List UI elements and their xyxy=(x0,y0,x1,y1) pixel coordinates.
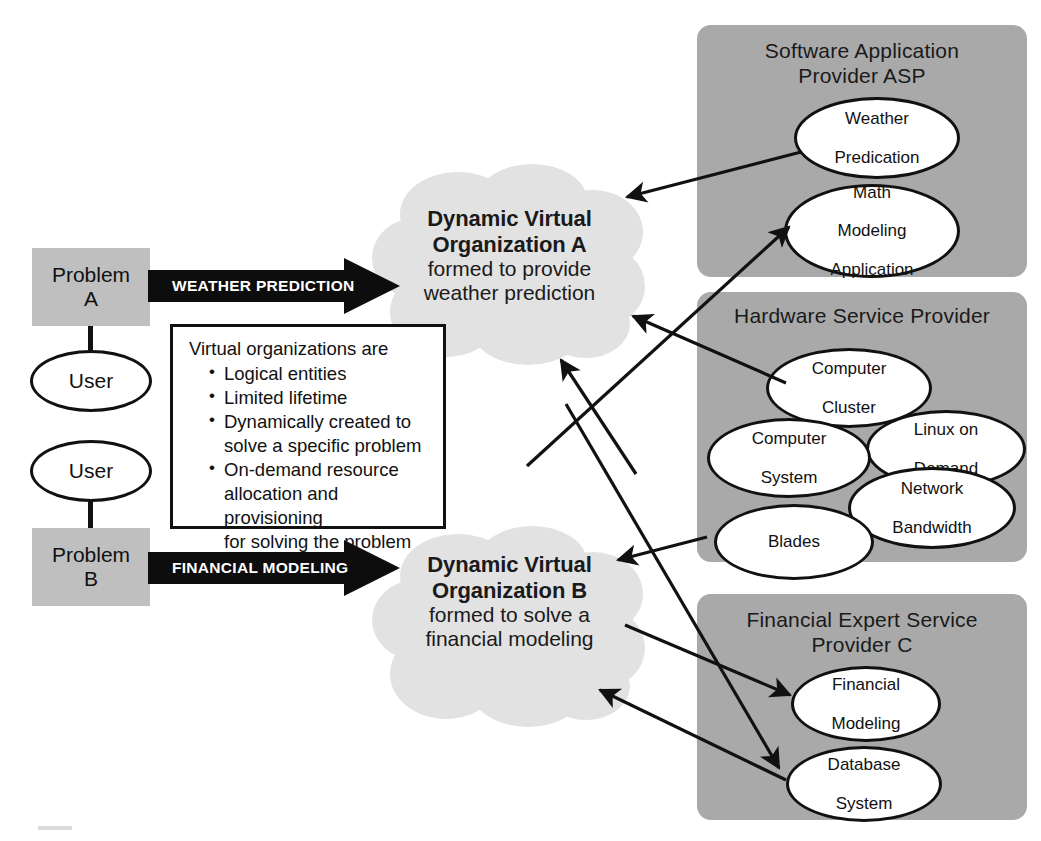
service-node-math-modeling-application[interactable]: Math Modeling Application xyxy=(784,184,960,278)
cloud-b-subtitle-line1: formed to solve a xyxy=(372,603,647,627)
service-label-line1: Blades xyxy=(762,532,826,551)
service-node-database-system[interactable]: Database System xyxy=(786,746,942,822)
user-node-top[interactable]: User xyxy=(30,350,152,412)
diagram-canvas: Software Application Provider ASP Hardwa… xyxy=(0,0,1041,841)
service-label-computer-cluster: Computer Cluster xyxy=(800,359,899,416)
problem-b-line2: B xyxy=(52,567,130,591)
info-box-bullet-line: allocation and provisioning xyxy=(224,483,338,528)
cloud-a-subtitle-line2: weather prediction xyxy=(372,281,647,305)
problem-a-label: Problem A xyxy=(52,263,130,312)
service-label-blades: Blades xyxy=(756,532,832,551)
provider-title-hardware-service: Hardware Service Provider xyxy=(697,304,1027,329)
provider-title-software-application: Software Application Provider ASP xyxy=(697,39,1027,89)
service-node-computer-system[interactable]: Computer System xyxy=(707,418,871,498)
service-label-computer-system: Computer System xyxy=(740,429,839,486)
connector-database-system-to-cloud-a xyxy=(561,360,636,474)
service-label-financial-modeling: Financial Modeling xyxy=(820,675,913,732)
service-label-line2: Modeling xyxy=(826,714,907,733)
service-label-line2: Bandwidth xyxy=(886,518,977,537)
flow-arrow-weather-prediction: WEATHER PREDICTION xyxy=(148,258,400,314)
service-label-line2: System xyxy=(746,468,833,487)
user-bottom-label: User xyxy=(69,459,113,483)
info-box-bullet: On-demand resource allocation and provis… xyxy=(209,458,429,554)
info-box-bullet: Limited lifetime xyxy=(209,386,429,410)
flow-arrow-weather-prediction-label-wrap: WEATHER PREDICTION xyxy=(148,258,400,314)
problem-b-label: Problem B xyxy=(52,543,130,592)
problem-b-line1: Problem xyxy=(52,543,130,567)
problem-box-a[interactable]: Problem A xyxy=(32,248,150,326)
cloud-b-title-line2: Organization B xyxy=(372,578,647,604)
info-box-bullet-line: Limited lifetime xyxy=(224,387,347,408)
cloud-dynamic-virtual-organization-b: Dynamic Virtual Organization B formed to… xyxy=(372,524,647,729)
cloud-b-title-line1: Dynamic Virtual xyxy=(372,552,647,578)
service-node-financial-modeling[interactable]: Financial Modeling xyxy=(791,666,941,742)
problem-a-line1: Problem xyxy=(52,263,130,287)
service-label-line3: Application xyxy=(824,260,919,279)
service-label-line1: Math xyxy=(824,183,919,202)
problem-box-b[interactable]: Problem B xyxy=(32,528,150,606)
user-node-bottom[interactable]: User xyxy=(30,440,152,502)
service-label-line1: Network xyxy=(886,479,977,498)
connector-user-to-problem-b xyxy=(88,498,93,530)
info-box-bullet-list: Logical entities Limited lifetime Dynami… xyxy=(189,362,429,554)
service-label-line1: Computer xyxy=(806,359,893,378)
info-box-virtual-organizations: Virtual organizations are Logical entiti… xyxy=(170,324,446,529)
info-box-bullet-line: Dynamically created to xyxy=(224,411,411,432)
provider-title-line1: Hardware Service Provider xyxy=(697,304,1027,329)
provider-title-line1: Software Application xyxy=(697,39,1027,64)
service-label-line2: Predication xyxy=(828,148,925,167)
info-box-bullet-line: for solving the problem xyxy=(224,531,411,552)
flow-arrow-financial-modeling-label: FINANCIAL MODELING xyxy=(172,559,348,577)
info-box-bullet: Logical entities xyxy=(209,362,429,386)
service-label-line2: Cluster xyxy=(806,398,893,417)
provider-title-line2: Provider ASP xyxy=(697,64,1027,89)
provider-title-line2: Provider C xyxy=(697,633,1027,658)
problem-a-line2: A xyxy=(52,287,130,311)
user-top-label: User xyxy=(69,369,113,393)
cloud-a-subtitle-line1: formed to provide xyxy=(372,257,647,281)
provider-title-line1: Financial Expert Service xyxy=(697,608,1027,633)
cloud-b-subtitle-line2: financial modeling xyxy=(372,627,647,651)
info-box-lead: Virtual organizations are xyxy=(189,337,429,361)
info-box-bullet-line: solve a specific problem xyxy=(224,435,421,456)
service-label-line1: Linux on xyxy=(908,420,984,439)
service-label-line1: Financial xyxy=(826,675,907,694)
cloud-a-title-line2: Organization A xyxy=(372,232,647,258)
service-label-line2: Modeling xyxy=(824,221,919,240)
flow-arrow-weather-prediction-label: WEATHER PREDICTION xyxy=(172,277,355,295)
service-label-line1: Database xyxy=(822,755,907,774)
provider-title-financial-expert: Financial Expert Service Provider C xyxy=(697,608,1027,658)
info-box-bullet-line: Logical entities xyxy=(224,363,346,384)
service-label-line1: Computer xyxy=(746,429,833,448)
service-node-weather-predication[interactable]: Weather Predication xyxy=(794,97,960,179)
service-node-blades[interactable]: Blades xyxy=(714,504,874,580)
service-label-database-system: Database System xyxy=(816,755,913,812)
info-box-bullet: Dynamically created to solve a specific … xyxy=(209,410,429,458)
service-label-network-bandwidth: Network Bandwidth xyxy=(880,479,983,536)
service-label-line1: Weather xyxy=(828,109,925,128)
cloud-a-title-line1: Dynamic Virtual xyxy=(372,206,647,232)
service-label-math-modeling-application: Math Modeling Application xyxy=(818,183,925,278)
service-label-weather-predication: Weather Predication xyxy=(822,109,931,166)
cloud-b-text: Dynamic Virtual Organization B formed to… xyxy=(372,552,647,652)
service-label-line2: System xyxy=(822,794,907,813)
info-box-bullet-line: On-demand resource xyxy=(224,459,399,480)
cloud-a-text: Dynamic Virtual Organization A formed to… xyxy=(372,206,647,306)
scan-artifact xyxy=(38,826,72,830)
